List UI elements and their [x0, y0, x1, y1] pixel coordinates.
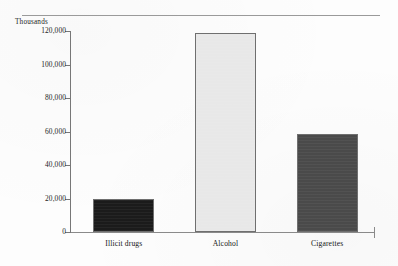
y-axis-tick-label: 0	[62, 227, 66, 236]
x-axis-line	[70, 232, 375, 233]
bar-chart-figure: Thousands 020,00040,00060,00080,000100,0…	[0, 0, 398, 266]
y-axis-tick-label: 40,000	[45, 160, 66, 169]
y-axis-tick-label: 60,000	[45, 127, 66, 136]
x-axis-label-illicit-drugs: Illicit drugs	[73, 239, 175, 248]
top-horizontal-rule	[22, 15, 380, 16]
x-axis-label-alcohol: Alcohol	[175, 239, 277, 248]
bar-texture	[298, 135, 357, 231]
y-axis-tick-label: 20,000	[45, 194, 66, 203]
y-axis-tick-label: 120,000	[41, 26, 66, 35]
bar-texture	[94, 200, 153, 231]
plot-area: 020,00040,00060,00080,000100,000120,000 …	[70, 31, 375, 233]
y-axis-tick-label: 100,000	[41, 60, 66, 69]
bar-texture	[196, 34, 255, 231]
bar-alcohol[interactable]	[195, 33, 256, 232]
x-axis-end-tick	[374, 227, 375, 238]
y-axis-tick-label: 80,000	[45, 93, 66, 102]
bar-cigarettes[interactable]	[297, 134, 358, 232]
x-axis-label-cigarettes: Cigarettes	[276, 239, 378, 248]
bar-illicit-drugs[interactable]	[93, 199, 154, 232]
y-axis-unit-label: Thousands	[15, 18, 48, 26]
